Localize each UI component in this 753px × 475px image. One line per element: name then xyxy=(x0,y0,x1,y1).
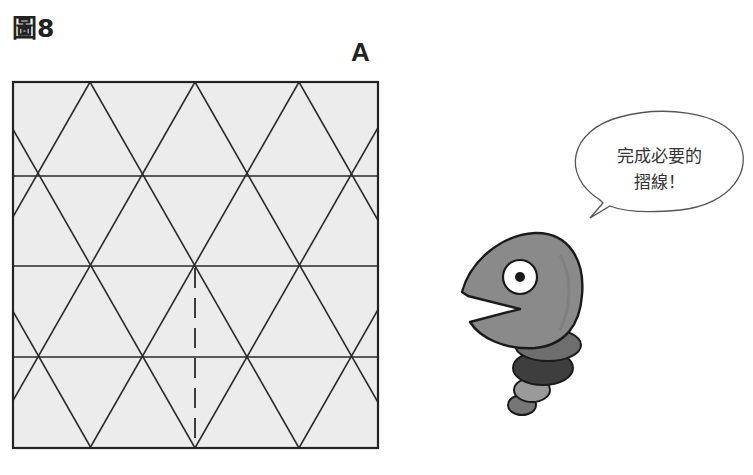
bubble-line-1: 完成必要的 xyxy=(595,143,723,169)
mascot-character xyxy=(462,233,582,415)
mascot-pupil xyxy=(515,272,525,282)
bubble-line-2: 摺線！ xyxy=(595,169,723,195)
speech-bubble-text: 完成必要的 摺線！ xyxy=(595,143,723,195)
